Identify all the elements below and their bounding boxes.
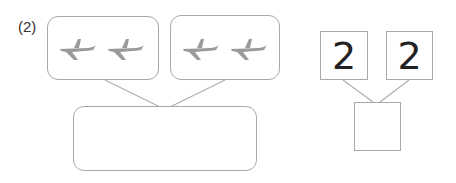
total-answer-box[interactable] [73, 106, 257, 171]
airplane-icon [58, 37, 98, 61]
group-box-right [170, 15, 280, 80]
airplane-icon [229, 37, 269, 61]
airplane-icon [106, 37, 146, 61]
airplane-icon [181, 37, 221, 61]
part-box-right: 2 [386, 31, 433, 80]
problem-number: (2) [18, 18, 36, 35]
part-box-left: 2 [320, 31, 368, 80]
group-box-left [47, 16, 159, 80]
whole-answer-box[interactable] [354, 102, 401, 151]
